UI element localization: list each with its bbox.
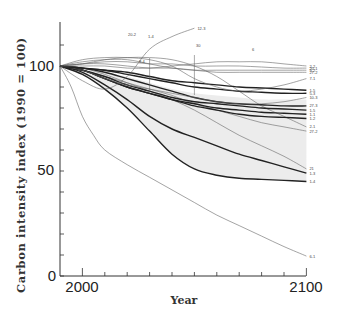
y-tick-0: 0 <box>48 267 56 284</box>
series-label: 27-3 <box>309 103 318 108</box>
x-ticks <box>82 268 306 276</box>
x-tick-2100: 2100 <box>289 278 322 295</box>
carbon-intensity-chart: 1-41-32127-22-11-21-11-527-310-35-31-57-… <box>0 0 338 317</box>
x-axis-title: Year <box>170 294 198 307</box>
y-tick-100: 100 <box>29 57 54 74</box>
series-label: 1-4 <box>309 179 316 184</box>
annotation-label: 8-4 <box>139 59 146 64</box>
annotation-label: 20-2 <box>128 32 137 37</box>
series-label: 2-1 <box>309 124 316 129</box>
annotation-label: 30 <box>196 43 201 48</box>
x-tick-2000: 2000 <box>65 278 98 295</box>
annotation-label: 1-4 <box>148 34 155 39</box>
series-label: 1-5 <box>309 88 316 93</box>
series-label: 6-1 <box>309 254 316 259</box>
y-tick-50: 50 <box>37 161 54 178</box>
series-label: 12-3 <box>197 26 206 31</box>
y-ticks <box>60 45 64 276</box>
series-label: 21 <box>309 166 314 171</box>
series-label: 7-1 <box>309 76 316 81</box>
annotation-label: 6 <box>252 47 255 52</box>
y-axis-title: Carbon intensity index (1990 = 100) <box>14 37 28 293</box>
series-label: 2-2 <box>309 64 316 69</box>
